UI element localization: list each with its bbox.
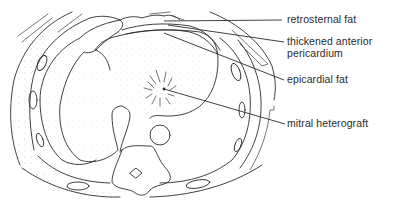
vertebra (112, 146, 170, 196)
thorax-illustration (0, 0, 396, 207)
body-outer-lower (22, 165, 262, 197)
heart-fill (104, 31, 220, 118)
spinal-canal (130, 168, 142, 178)
body-outer-contour-right (210, 12, 275, 100)
label-thickened-anterior-pericardium-line2: pericardium (287, 47, 343, 59)
label-thickened-anterior-pericardium-line1: thickened anterior (287, 35, 372, 47)
retrosternal-fat-shape (120, 15, 180, 20)
subcutaneous-tissue-lower (30, 172, 120, 196)
leader-retrosternal-fat (164, 20, 282, 21)
rib (229, 62, 243, 82)
label-retrosternal-fat: retrosternal fat (287, 13, 356, 25)
thorax-diagram: retrosternal fat thickened anterior peri… (0, 0, 396, 207)
label-epicardial-fat: epicardial fat (287, 73, 348, 85)
rib (239, 102, 245, 118)
label-mitral-heterograft: mitral heterograft (287, 117, 368, 129)
descending-aorta (150, 125, 170, 145)
